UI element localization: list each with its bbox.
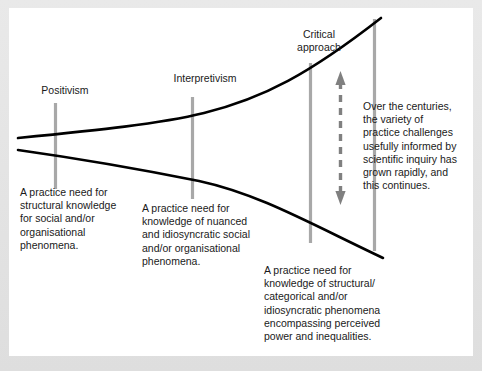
marker-label-critical: Critical approach [265, 28, 373, 53]
note-positivism: A practice need for structural knowledge… [20, 186, 138, 252]
marker-label-interpretivism: Interpretivism [143, 72, 267, 85]
variety-range-arrow [335, 71, 345, 205]
marker-label-positivism: Positivism [11, 84, 119, 97]
note-interpretivism: A practice need for knowledge of nuanced… [142, 202, 270, 268]
note-critical: A practice need for knowledge of structu… [264, 264, 400, 343]
note-growth-over-centuries: Over the centuries, the variety of pract… [363, 100, 473, 192]
figure-canvas: Positivism Interpretivism Critical appro… [9, 8, 473, 356]
diagram-screenshot: Positivism Interpretivism Critical appro… [0, 0, 482, 371]
